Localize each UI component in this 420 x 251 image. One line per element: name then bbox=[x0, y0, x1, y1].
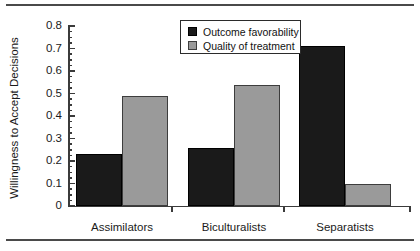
y-tick-minor bbox=[68, 110, 72, 112]
bar-assimilators-outcome-favorability bbox=[76, 154, 122, 206]
y-tick-minor bbox=[68, 65, 72, 67]
legend-swatch-icon bbox=[188, 41, 197, 50]
y-tick-minor bbox=[68, 42, 72, 44]
legend-entry-outcome-favorability: Outcome favorability bbox=[188, 25, 299, 38]
y-tick-minor bbox=[68, 127, 72, 129]
y-tick-minor bbox=[68, 200, 72, 202]
y-tick-minor bbox=[68, 87, 72, 89]
y-tick-major bbox=[68, 138, 75, 140]
y-tick-minor bbox=[68, 104, 72, 106]
y-tick-major bbox=[68, 70, 75, 72]
y-tick-minor bbox=[68, 53, 72, 55]
y-tick-label: 0 bbox=[56, 200, 62, 211]
y-tick-minor bbox=[68, 31, 72, 33]
y-tick-label: 0.7 bbox=[46, 43, 62, 54]
y-tick-major bbox=[68, 48, 75, 50]
y-tick-minor bbox=[68, 82, 72, 84]
x-category-label: Separatists bbox=[269, 221, 420, 233]
y-tick-minor bbox=[68, 132, 72, 134]
bar-separatists-outcome-favorability bbox=[299, 46, 345, 206]
legend-label: Outcome favorability bbox=[203, 27, 299, 37]
y-tick-label: 0.1 bbox=[46, 178, 62, 189]
y-tick-major bbox=[68, 160, 75, 162]
y-tick-minor bbox=[68, 177, 72, 179]
y-tick-major bbox=[68, 115, 75, 117]
legend-label: Quality of treatment bbox=[203, 41, 295, 51]
legend-swatch-icon bbox=[188, 27, 197, 36]
legend-entry-quality-of-treatment: Quality of treatment bbox=[188, 39, 295, 52]
y-tick-label: 0.3 bbox=[46, 133, 62, 144]
bar-assimilators-quality-of-treatment bbox=[122, 96, 168, 206]
plot-area: 00.10.20.30.40.50.60.70.8 Willingness to… bbox=[0, 0, 420, 251]
y-tick-minor bbox=[68, 166, 72, 168]
y-tick-minor bbox=[68, 121, 72, 123]
y-tick-minor bbox=[68, 143, 72, 145]
figure: 00.10.20.30.40.50.60.70.8 Willingness to… bbox=[0, 0, 420, 251]
x-tick bbox=[409, 206, 411, 212]
bar-biculturalists-quality-of-treatment bbox=[234, 85, 280, 207]
y-tick-minor bbox=[68, 188, 72, 190]
y-tick-label: 0.6 bbox=[46, 65, 62, 76]
bar-separatists-quality-of-treatment bbox=[345, 184, 391, 207]
y-tick-major bbox=[68, 25, 75, 27]
y-tick-label: 0.2 bbox=[46, 155, 62, 166]
y-tick-label: 0.5 bbox=[46, 88, 62, 99]
y-tick-minor bbox=[68, 59, 72, 61]
y-tick-minor bbox=[68, 98, 72, 100]
y-tick-major bbox=[68, 93, 75, 95]
bar-biculturalists-outcome-favorability bbox=[188, 148, 234, 207]
y-tick-label: 0.8 bbox=[46, 20, 62, 31]
y-axis-tick-labels: 00.10.20.30.40.50.60.70.8 bbox=[28, 0, 62, 251]
x-tick bbox=[171, 206, 173, 212]
y-tick-minor bbox=[68, 37, 72, 39]
y-axis-title: Willingness to Accept Decisions bbox=[8, 20, 20, 216]
y-tick-major bbox=[68, 183, 75, 185]
y-tick-label: 0.4 bbox=[46, 110, 62, 121]
legend-box: Outcome favorability Quality of treatmen… bbox=[180, 20, 301, 54]
y-tick-minor bbox=[68, 172, 72, 174]
y-tick-major bbox=[68, 205, 75, 207]
y-tick-minor bbox=[68, 155, 72, 157]
y-tick-minor bbox=[68, 76, 72, 78]
x-tick bbox=[283, 206, 285, 212]
y-tick-minor bbox=[68, 149, 72, 151]
y-tick-minor bbox=[68, 194, 72, 196]
